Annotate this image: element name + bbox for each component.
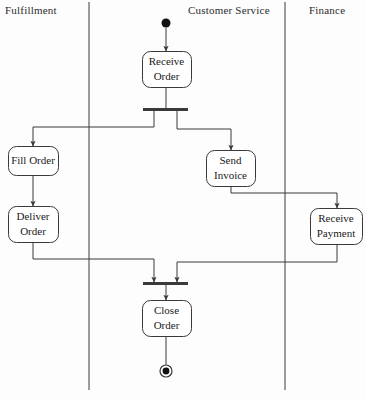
action-label-receive-payment: Receive Payment: [310, 208, 362, 244]
swimlane-label-finance: Finance: [309, 4, 345, 16]
edge-receive-payment-to-join: [177, 244, 337, 282]
edge-send-invoice-to-receive-payment: [231, 186, 337, 208]
edge-deliver-order-to-join: [33, 242, 154, 282]
edge-fork-to-send-invoice: [177, 111, 231, 150]
swimlane-label-fulfillment: Fulfillment: [5, 4, 57, 16]
action-label-close-order: Close Order: [142, 300, 191, 336]
join-bar-join[interactable]: [143, 282, 188, 285]
activity-diagram-canvas: FulfillmentCustomer ServiceFinance Recei…: [0, 0, 366, 401]
action-label-deliver-order: Deliver Order: [8, 206, 58, 242]
action-label-send-invoice: Send Invoice: [206, 150, 255, 186]
fork-bar-fork[interactable]: [143, 108, 188, 111]
edge-fork-to-fill-order: [33, 111, 154, 146]
initial-node[interactable]: [162, 19, 171, 28]
final-node-inner-dot: [163, 368, 170, 375]
action-label-fill-order: Fill Order: [8, 146, 58, 175]
action-label-receive-order: Receive Order: [142, 51, 191, 87]
swimlane-label-customer-service: Customer Service: [188, 4, 270, 16]
